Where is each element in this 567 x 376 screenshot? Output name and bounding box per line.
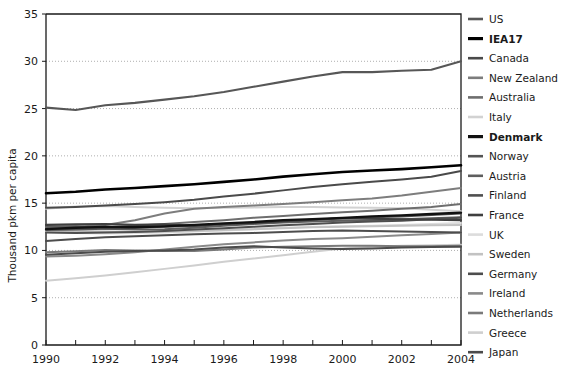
legend-label-italy[interactable]: Italy [489,111,512,123]
x-tick-label: 1996 [210,353,238,366]
y-tick-label: 35 [24,8,38,21]
x-tick-label: 1994 [151,353,179,366]
legend-label-new-zealand[interactable]: New Zealand [489,72,558,84]
y-tick-label: 10 [24,244,38,257]
legend-label-japan[interactable]: Japan [488,346,518,358]
y-tick-labels: 05101520253035 [24,8,38,352]
y-tick-label: 15 [24,197,38,210]
x-tick-label: 2004 [447,353,475,366]
y-tick-label: 0 [31,339,38,352]
y-axis-label: Thousand pkm per capita [6,148,18,283]
legend-label-germany[interactable]: Germany [489,268,537,280]
legend-label-us[interactable]: US [489,13,504,25]
series-lines [46,61,461,280]
legend-label-france[interactable]: France [489,209,524,221]
y-axis-title: Thousand pkm per capita [6,148,18,283]
x-tick-label: 1992 [91,353,119,366]
x-axis-ticks [46,340,461,345]
y-tick-label: 5 [31,292,38,305]
x-tick-label: 2000 [328,353,356,366]
legend-label-canada[interactable]: Canada [489,52,529,64]
legend: USIEA17CanadaNew ZealandAustraliaItalyDe… [468,13,558,358]
x-tick-label: 1998 [269,353,297,366]
legend-label-uk[interactable]: UK [489,229,505,241]
legend-label-ireland[interactable]: Ireland [489,287,525,299]
x-tick-label: 1990 [32,353,60,366]
series-line-ireland [46,232,461,256]
legend-label-norway[interactable]: Norway [489,150,529,162]
legend-label-austria[interactable]: Austria [489,170,526,182]
y-tick-label: 25 [24,103,38,116]
y-tick-label: 30 [24,55,38,68]
legend-label-finland[interactable]: Finland [489,189,527,201]
y-tick-label: 20 [24,150,38,163]
legend-label-sweden[interactable]: Sweden [489,248,531,260]
legend-label-australia[interactable]: Australia [489,91,535,103]
x-tick-labels: 19901992199419961998200020022004 [32,353,475,366]
line-chart: 05101520253035 1990199219941996199820002… [0,0,567,376]
legend-label-greece[interactable]: Greece [489,327,526,339]
chart-root: 05101520253035 1990199219941996199820002… [0,0,567,376]
x-tick-label: 2002 [388,353,416,366]
legend-label-netherlands[interactable]: Netherlands [489,307,553,319]
legend-label-denmark[interactable]: Denmark [489,131,544,143]
series-line-us [46,61,461,110]
legend-label-iea17[interactable]: IEA17 [489,33,523,45]
